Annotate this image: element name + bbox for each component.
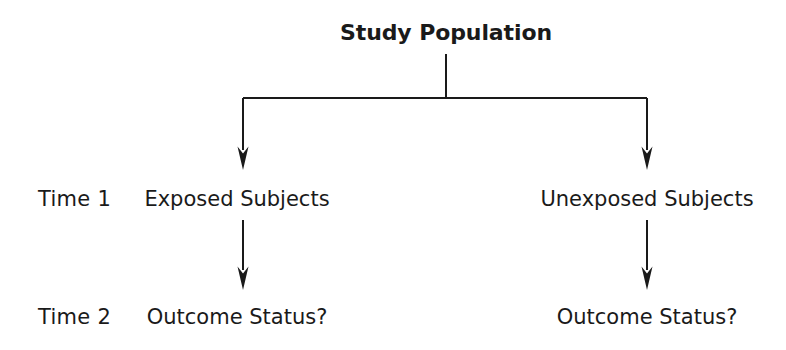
- arrowhead-exposed-to-outcome: [238, 267, 249, 291]
- cohort-study-flowchart: Study Population Time 1 Time 2 Exposed S…: [0, 0, 786, 350]
- arrowhead-root-to-unexposed: [642, 147, 653, 171]
- row-label-time-2: Time 2: [38, 307, 111, 328]
- node-exposed-outcome-status: Outcome Status?: [147, 307, 328, 328]
- root-node-study-population: Study Population: [340, 22, 552, 44]
- node-exposed-subjects: Exposed Subjects: [144, 189, 329, 210]
- flowchart-connectors: [0, 0, 786, 350]
- node-unexposed-subjects: Unexposed Subjects: [540, 189, 753, 210]
- row-label-time-1: Time 1: [38, 189, 111, 210]
- arrowhead-unexposed-to-outcome: [642, 267, 653, 291]
- node-unexposed-outcome-status: Outcome Status?: [557, 307, 738, 328]
- arrowhead-root-to-exposed: [238, 147, 249, 171]
